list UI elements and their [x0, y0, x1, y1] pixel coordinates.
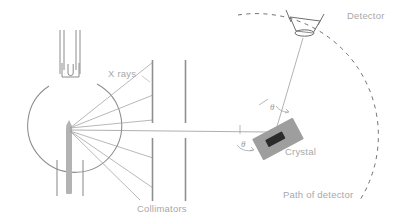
x-rays-label: X rays — [108, 68, 136, 79]
diagram-canvas: θ θ X rays Collimators Crystal Detector … — [0, 0, 401, 223]
x-ray-beam-fan — [70, 62, 268, 200]
detector — [286, 10, 324, 36]
collimators-label: Collimators — [137, 203, 187, 214]
beam-ray-6 — [70, 131, 140, 200]
target-anode-rod — [66, 126, 72, 194]
beam-ray-2 — [70, 95, 153, 128]
target-anode-tip — [66, 120, 72, 126]
reflected-angle-tick — [259, 99, 268, 105]
xray-diffractometer-diagram: θ θ X rays Collimators Crystal Detector … — [0, 0, 401, 223]
detector-label: Detector — [347, 10, 385, 21]
theta-reflected-label: θ — [270, 102, 275, 112]
theta-incident-label: θ — [241, 139, 246, 149]
reflected-angle-arrowhead — [285, 109, 289, 113]
x-rays-leader — [142, 76, 150, 82]
diffracted-ray — [276, 38, 303, 130]
crystal-label: Crystal — [285, 146, 316, 157]
label-leaders — [142, 76, 150, 82]
detector-bracket-left — [286, 10, 291, 22]
diffracted-beam — [276, 38, 303, 130]
tube-bulb-outline — [28, 84, 122, 172]
beam-ray-5 — [70, 131, 153, 188]
detector-path-arc — [238, 14, 378, 200]
beam-ray-3 — [70, 120, 153, 128]
detector-path-arc-group — [238, 14, 378, 200]
collimated-beam-axis — [70, 130, 268, 132]
filament-coil — [68, 64, 73, 76]
path-of-detector-label: Path of detector — [283, 189, 353, 200]
